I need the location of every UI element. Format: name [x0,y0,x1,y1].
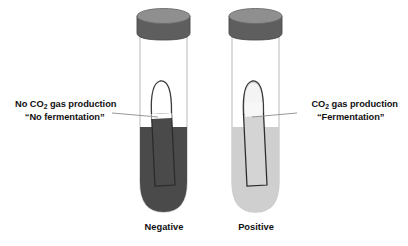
callout-no-gas: No CO2 gas production “No fermentation” [15,98,116,124]
tube-positive-cap [229,9,282,41]
callout-no-gas-line1: No CO2 gas production [15,98,116,111]
callout-no-gas-line2: “No fermentation” [15,111,116,124]
tube-positive [229,9,282,218]
figure-canvas: No CO2 gas production “No fermentation” … [0,0,408,246]
gas-bubble-positive-base [245,102,263,117]
callout-gas-line1: CO2 gas production [311,98,398,111]
tube-positive-cap-top [229,9,282,24]
tube-negative-cap [137,9,190,41]
callout-gas-line2: “Fermentation” [311,111,398,124]
caption-positive: Positive [228,222,284,232]
callout-gas: CO2 gas production “Fermentation” [311,98,398,124]
tube-negative [137,9,190,218]
tube-negative-cap-top [137,9,190,24]
caption-negative: Negative [136,222,192,232]
durham-tube-negative-dome [151,81,171,114]
durham-tube-negative-headspace [152,113,172,119]
subscript-2: 2 [44,103,48,110]
durham-tube-positive-body [244,113,268,186]
durham-tube-negative-body [152,113,176,186]
subscript-2: 2 [325,103,329,110]
